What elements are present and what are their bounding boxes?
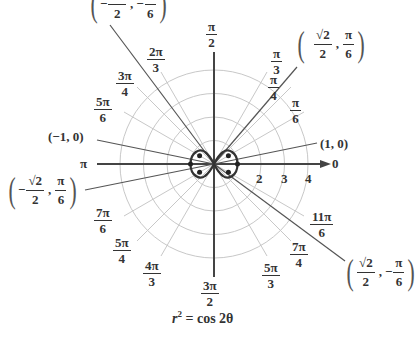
point-label-sqrt2-over-2-pi-over-6: ( √22 , π6 ) [295,26,367,62]
radius-tick-3: 3 [281,172,288,185]
angle-label-3pi-over-2: 3π 2 [201,279,219,308]
angle-label-11pi-over-6: 11π 6 [310,210,333,239]
angle-label-7pi-over-4: 7π 4 [290,240,308,269]
angle-label-pi: π [80,157,87,170]
point-label-neg1-0: (−1, 0) [48,130,84,143]
point-label-neg-sqrt2-over-2-pi-over-6: ( − √22 , π6 ) [6,172,79,208]
angle-label-5pi-over-6: 5π 6 [94,95,112,124]
angle-label-zero: 0 [332,157,339,170]
radius-tick-2: 2 [256,172,263,185]
angle-label-pi-over-3: π 3 [271,47,282,76]
angle-label-pi-over-6: π 6 [290,96,301,125]
axis-arrow-icon [320,160,331,168]
point-label-sqrt2-over-2-neg-pi-over-6: ( √22 , − π6 ) [344,254,417,290]
angle-label-7pi-over-6: 7π 6 [94,206,112,235]
angle-label-2pi-over-3: 2π 3 [147,45,165,74]
angle-label-4pi-over-3: 4π 3 [143,259,161,288]
radius-tick-4: 4 [305,172,312,185]
figure-caption: r2 = cos 2θ [172,309,233,327]
point-label-neg-sqrt2-over-2-neg-pi-over-6: ( − √22 , − π6 ) [88,0,169,22]
angle-label-pi-over-4: π 4 [268,73,279,102]
angle-label-pi-over-2: π 2 [206,20,217,49]
angle-label-3pi-over-4: 3π 4 [116,69,134,98]
angle-label-5pi-over-3: 5π 3 [262,261,280,290]
angle-label-5pi-over-4: 5π 4 [113,236,131,265]
point-label-1-0: (1, 0) [320,137,348,150]
